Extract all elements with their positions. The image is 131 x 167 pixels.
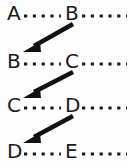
diagram-row-3: C D	[7, 93, 127, 117]
chain-arrow-b-to-b-head-fill	[23, 42, 41, 52]
node-label-row3-right: D	[65, 93, 80, 117]
chain-arrow-b-to-b	[23, 24, 73, 52]
node-label-row3-left: C	[7, 93, 21, 117]
chain-diagram: A B B C C D	[0, 0, 131, 167]
node-label-row1-left: A	[7, 1, 21, 25]
diagram-row-1: A B	[7, 1, 127, 25]
chain-arrow-c-to-c-head	[23, 88, 41, 98]
node-label-row4-left: D	[7, 139, 22, 163]
node-label-row1-right: B	[65, 1, 79, 25]
node-label-row2-right: C	[65, 49, 79, 73]
chain-arrow-d-to-d-head	[23, 133, 41, 143]
node-label-row4-right: E	[65, 139, 78, 163]
diagram-canvas: A B B C C D	[0, 0, 131, 167]
node-label-row2-left: B	[7, 49, 21, 73]
diagram-row-2: B C	[7, 49, 127, 73]
